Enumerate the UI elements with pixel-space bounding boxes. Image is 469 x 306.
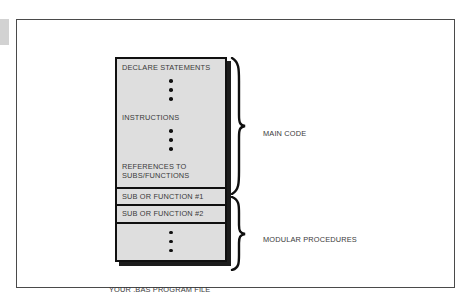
dot: [169, 147, 173, 151]
dot: [169, 240, 173, 244]
block-sub-or-function-2: SUB OR FUNCTION #2: [117, 204, 225, 221]
ellipsis-dots-after-instructions: [117, 129, 225, 151]
dot: [169, 129, 173, 133]
label-instructions: INSTRUCTIONS: [117, 113, 225, 122]
label-subs-functions: SUBS/FUNCTIONS: [117, 171, 225, 180]
dot: [169, 138, 173, 142]
group-label-modular-procedures: MODULAR PROCEDURES: [263, 235, 357, 244]
label-sub-or-function-1: SUB OR FUNCTION #1: [117, 192, 225, 201]
ellipsis-dots-after-declare: [117, 79, 225, 101]
diagram-frame: DECLARE STATEMENTS INSTRUCTIONS REFERENC…: [16, 19, 455, 288]
label-declare-statements: DECLARE STATEMENTS: [117, 63, 225, 72]
bas-program-file-stack: DECLARE STATEMENTS INSTRUCTIONS REFERENC…: [115, 57, 227, 262]
block-more-procedures: [117, 222, 225, 261]
block-sub-or-function-1: SUB OR FUNCTION #1: [117, 187, 225, 204]
label-references-to: REFERENCES TO: [117, 162, 225, 171]
dot: [169, 97, 173, 101]
ellipsis-dots-more-procedures: [117, 231, 225, 253]
stack-inner: DECLARE STATEMENTS INSTRUCTIONS REFERENC…: [115, 57, 227, 262]
group-label-main-code: MAIN CODE: [263, 129, 306, 138]
label-sub-or-function-2: SUB OR FUNCTION #2: [117, 209, 225, 218]
dot: [169, 88, 173, 92]
dot: [169, 231, 173, 235]
scan-edge-artifact: [0, 19, 9, 45]
block-main-code: DECLARE STATEMENTS INSTRUCTIONS REFERENC…: [117, 59, 225, 187]
brace-main-code: [230, 57, 246, 195]
dot: [169, 249, 173, 253]
brace-modular-procedures: [230, 196, 246, 271]
file-caption: YOUR .BAS PROGRAM FILE: [109, 285, 210, 294]
dot: [169, 79, 173, 83]
